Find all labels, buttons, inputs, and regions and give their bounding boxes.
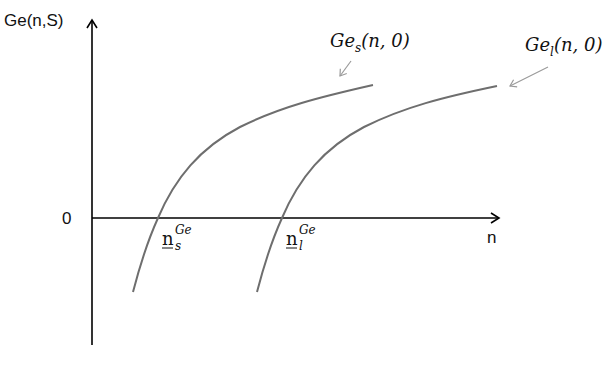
root-label-s-base: n: [162, 228, 174, 249]
root-label-s-sup: Ge: [175, 223, 192, 237]
pointer-arrow-l: [510, 67, 548, 86]
root-label-l-sup: Ge: [299, 223, 316, 237]
diagram: Ge(n,S) n 0 Ges(n, 0) Gel(n, 0) n Ge s n…: [0, 0, 607, 365]
pointer-arrow-s: [340, 61, 351, 76]
curve-label-l: Gel(n, 0): [525, 34, 602, 59]
curve-label-s-args: (n, 0): [361, 30, 410, 51]
y-axis-label: Ge(n,S): [4, 11, 64, 30]
curve-label-s: Ges(n, 0): [330, 30, 410, 55]
origin-label: 0: [62, 209, 71, 228]
curve-label-s-base: Ge: [330, 30, 355, 51]
root-label-l: n Ge l: [286, 223, 316, 253]
curve-ge-l: [257, 86, 497, 292]
curve-ge-s: [133, 85, 373, 292]
curve-label-l-base: Ge: [525, 34, 550, 55]
root-label-l-base: n: [286, 228, 298, 249]
x-axis-label: n: [487, 228, 496, 247]
curve-label-l-args: (n, 0): [554, 34, 603, 55]
root-label-l-sub: l: [299, 239, 303, 253]
root-label-s: n Ge s: [162, 223, 192, 253]
root-label-s-sub: s: [175, 239, 181, 253]
